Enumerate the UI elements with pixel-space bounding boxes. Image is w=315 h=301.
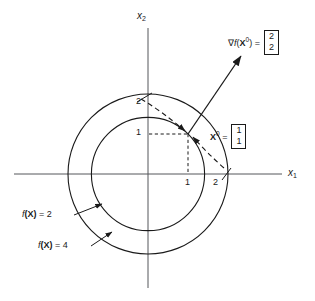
point-component-2: 1 (236, 136, 241, 147)
tick-label-y-two: 2 (136, 97, 141, 106)
point-component-1: 1 (236, 125, 241, 136)
point-equation-lhs: X0 = (210, 130, 227, 142)
contour-label-2: f(X) = 2 (22, 210, 52, 219)
gradient-equation: ∇f(X0) = 2 2 (228, 30, 279, 55)
tick-label-x-one: 1 (185, 178, 190, 187)
leader-line-contour-2 (74, 204, 102, 215)
figure-contour-gradient: x2 x1 2 1 1 2 f(X) = 2 f(X) = 4 ∇f(X0) =… (0, 0, 315, 301)
y-axis-label: x2 (137, 11, 146, 22)
point-equation: X0 = 1 1 (210, 124, 246, 149)
gradient-component-2: 2 (269, 42, 274, 53)
tick-label-x-two: 2 (213, 178, 218, 187)
tick-label-y-one: 1 (136, 128, 141, 137)
gradient-component-1: 2 (269, 31, 274, 42)
contour-label-4: f(X) = 4 (38, 241, 68, 250)
gradient-column-vector: 2 2 (264, 30, 279, 55)
gradient-vector-arrow (188, 56, 241, 134)
x-axis-label: x1 (288, 168, 297, 179)
point-column-vector: 1 1 (231, 124, 246, 149)
gradient-equation-lhs: ∇f(X0) = (228, 36, 260, 48)
